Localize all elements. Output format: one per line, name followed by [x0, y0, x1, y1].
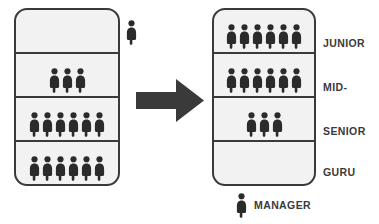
person-icon	[68, 156, 79, 181]
diagram-canvas: JUNIOR MID- SENIOR GURU MANAGER	[0, 0, 379, 224]
after-tier-junior	[214, 10, 314, 54]
person-icon	[81, 112, 92, 137]
before-tier-2-figures	[16, 68, 118, 93]
right-arrow-icon	[136, 79, 204, 122]
tier-label-junior: JUNIOR	[323, 38, 365, 49]
person-icon	[236, 193, 247, 218]
person-icon	[278, 68, 289, 93]
person-icon	[55, 156, 66, 181]
person-icon	[226, 68, 237, 93]
person-icon	[126, 20, 137, 45]
person-icon	[272, 112, 283, 137]
tier-label-mid: MID-	[323, 82, 347, 93]
person-icon	[81, 156, 92, 181]
tier-label-senior: SENIOR	[323, 126, 366, 137]
after-tier-senior-figures	[214, 112, 314, 137]
person-icon	[252, 68, 263, 93]
person-icon	[29, 112, 40, 137]
before-tier-3	[16, 98, 118, 142]
after-tier-guru	[214, 142, 314, 184]
person-icon	[252, 24, 263, 49]
person-icon	[29, 156, 40, 181]
person-icon	[75, 68, 86, 93]
person-icon	[239, 68, 250, 93]
before-tier-4-figures	[16, 156, 118, 181]
after-tier-mid	[214, 54, 314, 98]
person-icon	[265, 68, 276, 93]
person-icon	[62, 68, 73, 93]
before-tier-2	[16, 54, 118, 98]
person-icon	[259, 112, 270, 137]
person-icon	[68, 112, 79, 137]
person-icon	[246, 112, 257, 137]
tier-label-guru: GURU	[323, 167, 356, 178]
person-icon	[291, 24, 302, 49]
person-icon	[94, 112, 105, 137]
person-icon	[265, 24, 276, 49]
person-icon	[42, 112, 53, 137]
after-tier-junior-figures	[214, 24, 314, 49]
before-pyramid	[14, 8, 120, 186]
manager-legend: MANAGER	[236, 193, 311, 218]
manager-legend-label: MANAGER	[254, 200, 311, 211]
after-tier-senior	[214, 98, 314, 142]
before-tier-3-figures	[16, 112, 118, 137]
manager-legend-figures	[236, 193, 247, 218]
person-icon	[239, 24, 250, 49]
person-icon	[55, 112, 66, 137]
person-icon	[94, 156, 105, 181]
person-icon	[42, 156, 53, 181]
person-icon	[291, 68, 302, 93]
after-pyramid	[212, 8, 316, 186]
person-icon	[278, 24, 289, 49]
person-icon	[49, 68, 60, 93]
before-standalone-manager-figures	[126, 20, 137, 45]
after-tier-mid-figures	[214, 68, 314, 93]
before-tier-1	[16, 10, 118, 54]
person-icon	[226, 24, 237, 49]
before-tier-4	[16, 142, 118, 184]
